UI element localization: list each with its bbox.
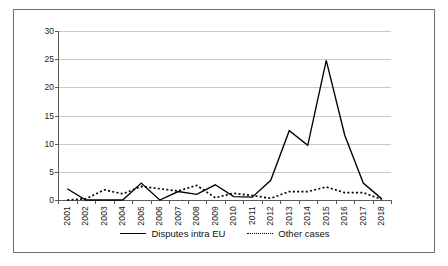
legend-entry[interactable]: Disputes intra EU — [120, 229, 225, 239]
chart-legend: Disputes intra EUOther cases — [14, 229, 436, 239]
chart-series-layer — [58, 31, 391, 201]
y-axis-tick-label: 20 — [45, 83, 54, 92]
y-axis-tick-label: 10 — [45, 139, 54, 148]
legend-label: Other cases — [278, 229, 329, 239]
y-axis-tick-label: 0 — [49, 196, 54, 205]
series-line-disputes-intra-eu — [67, 60, 382, 200]
x-axis-tick-label: 2014 — [303, 206, 312, 226]
x-axis-tick-label: 2010 — [229, 206, 238, 226]
x-axis-tick-label: 2013 — [285, 206, 294, 226]
y-axis-tick-label: 5 — [49, 168, 54, 177]
x-axis-tick-label: 2016 — [340, 206, 349, 226]
legend-entry[interactable]: Other cases — [247, 229, 329, 239]
y-axis-tick-label: 30 — [45, 27, 54, 36]
y-axis-tick-label: 25 — [45, 55, 54, 64]
x-axis-tick-label: 2004 — [118, 206, 127, 226]
x-axis-tick-label: 2005 — [137, 206, 146, 226]
legend-label: Disputes intra EU — [151, 229, 225, 239]
x-axis-tick-label: 2002 — [81, 206, 90, 226]
x-axis-tick-label: 2009 — [211, 206, 220, 226]
x-axis-tick-label: 2012 — [266, 206, 275, 226]
x-axis-tick-label: 2003 — [100, 206, 109, 226]
dotted-line-swatch — [247, 233, 273, 234]
y-axis-tick-label: 15 — [45, 111, 54, 120]
x-axis-tick-label: 2008 — [192, 206, 201, 226]
solid-line-swatch — [120, 233, 146, 234]
x-axis-tick-label: 2001 — [63, 206, 72, 226]
x-axis-tick-label: 2017 — [359, 206, 368, 226]
x-axis-tick-label: 2018 — [377, 206, 386, 226]
x-axis-tick-label: 2011 — [248, 206, 257, 225]
x-axis-tick-label: 2007 — [174, 206, 183, 226]
y-axis-tick-labels: 051015202530 — [28, 10, 54, 254]
x-axis-tick-mark — [391, 200, 392, 204]
chart-plot-wrapper: 051015202530 200120022003200420052006200… — [14, 10, 436, 254]
series-line-other-cases — [67, 185, 382, 200]
x-axis-tick-label: 2006 — [155, 206, 164, 226]
x-axis-tick-label: 2015 — [322, 206, 331, 226]
chart-frame: 051015202530 200120022003200420052006200… — [13, 9, 435, 253]
